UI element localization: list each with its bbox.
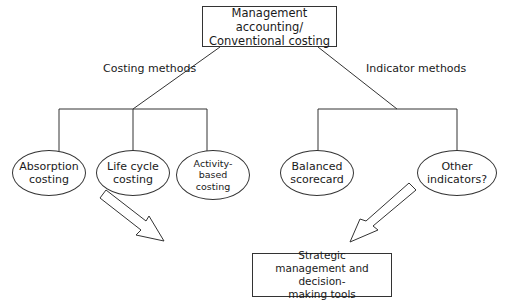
arrow-to-strategic-tools-right xyxy=(350,183,416,242)
leaf-label: Other indicators? xyxy=(427,160,487,186)
root-node-management-accounting: Management accounting/ Conventional cost… xyxy=(202,6,337,47)
leaf-absorption-costing: Absorption costing xyxy=(12,150,86,196)
leaf-other-indicators: Other indicators? xyxy=(417,150,497,196)
branch-label-indicator-methods: Indicator methods xyxy=(366,62,466,75)
leaf-activity-based-costing: Activity- based costing xyxy=(176,150,250,200)
target-node-label: Strategic management and decision- makin… xyxy=(253,249,391,301)
target-node-strategic-tools: Strategic management and decision- makin… xyxy=(252,253,392,297)
leaf-balanced-scorecard: Balanced scorecard xyxy=(280,150,354,196)
leaf-label: Activity- based costing xyxy=(194,158,233,193)
leaf-label: Balanced scorecard xyxy=(290,160,344,186)
leaf-label: Life cycle costing xyxy=(107,160,159,186)
branch-label-costing-methods: Costing methods xyxy=(103,62,196,75)
leaf-label: Absorption costing xyxy=(19,160,79,186)
arrow-to-strategic-tools-left xyxy=(100,190,164,241)
leaf-life-cycle-costing: Life cycle costing xyxy=(96,150,170,196)
root-node-label: Management accounting/ Conventional cost… xyxy=(203,6,336,48)
